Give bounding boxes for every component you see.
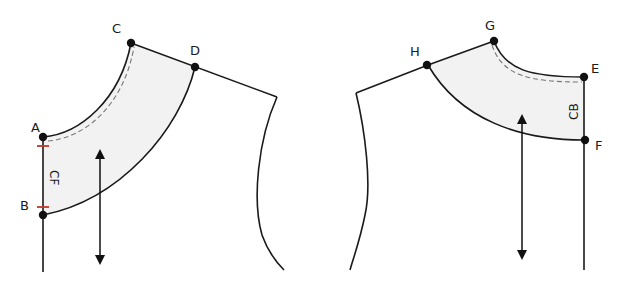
label-cf: CF [47,170,61,185]
label-d: D [190,43,200,58]
label-e: E [591,61,599,76]
point-h [423,61,431,69]
label-b: B [20,198,29,213]
back-bodice: E F G H CB [350,18,602,270]
front-grainline-arrowhead-down [95,255,105,265]
label-c: C [112,21,121,36]
point-b [39,211,47,219]
front-bodice: A B C D CF [20,21,284,272]
back-grainline-arrowhead-down [517,250,527,260]
point-c [127,39,135,47]
point-a [39,133,47,141]
label-h: H [410,44,420,59]
point-e [580,73,588,81]
point-g [490,37,498,45]
point-f [581,136,589,144]
front-facing-area [43,43,195,215]
label-g: G [485,18,495,33]
back-armhole-curve [350,93,368,270]
front-armhole-curve [257,97,284,270]
label-a: A [31,120,40,135]
label-cb: CB [567,103,581,120]
pattern-diagram: A B C D CF E F G H CB [0,0,622,292]
label-f: F [595,138,602,153]
point-d [191,63,199,71]
